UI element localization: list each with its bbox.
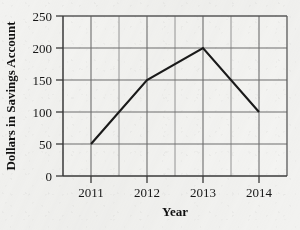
x-axis-label-2014: 2014 [246,185,273,200]
chart-page: 0 50 100 150 200 250 2011 2012 2013 2014… [0,0,300,230]
x-axis-title: Year [162,204,188,219]
y-axis-ticks [56,16,63,176]
y-axis-label-100: 100 [33,105,53,120]
y-axis-title: Dollars in Savings Account [3,21,18,171]
x-axis-label-2012: 2012 [134,185,160,200]
x-axis-ticks [91,176,259,183]
savings-account-line-chart: 0 50 100 150 200 250 2011 2012 2013 2014… [0,0,300,230]
y-axis-label-0: 0 [46,169,53,184]
x-axis-label-2013: 2013 [190,185,216,200]
y-axis-label-150: 150 [33,73,53,88]
x-axis-label-2011: 2011 [78,185,104,200]
y-axis-label-50: 50 [39,137,52,152]
y-axis-label-250: 250 [33,9,53,24]
y-axis-label-200: 200 [33,41,53,56]
